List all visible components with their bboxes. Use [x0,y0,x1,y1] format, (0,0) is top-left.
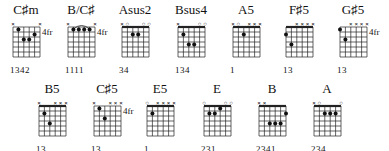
muted-string-icon: × [306,21,310,27]
fretboard-grid: ×××× [283,19,318,61]
chord-diagram: Asus2×○○○34 [115,3,165,78]
muted-string-icon: × [108,100,112,106]
finger-dot [150,112,154,116]
fingering-numbers: 231 [201,144,216,151]
finger-dot [207,112,211,116]
fretboard-grid: ×× [65,19,100,61]
fingering-numbers: 34 [119,65,129,75]
chord-name: E [197,82,237,96]
chord-name: A [307,82,347,96]
finger-dot [77,28,81,32]
muted-string-icon: × [167,100,171,106]
open-string-icon: ○ [198,21,202,27]
finger-dot [42,112,46,116]
muted-string-icon: × [59,100,63,106]
fretboard-grid: ○○○ [201,98,236,140]
fingering-numbers: 234 [311,144,326,151]
fingering-numbers: 13 [337,65,347,75]
fretboard-grid: ×○○ [175,19,210,61]
finger-dot [284,112,288,116]
muted-string-icon: × [312,100,316,106]
muted-string-icon: × [295,21,299,27]
chord-name: Bsus4 [171,3,211,17]
fretboard-grid: ×××× [337,19,372,61]
chord-diagram: Bsus4×○○134 [171,3,221,78]
finger-dot [289,43,293,47]
muted-string-icon: × [253,21,257,27]
finger-dot [338,28,342,32]
muted-string-icon: × [360,21,364,27]
muted-string-icon: × [114,100,118,106]
muted-string-icon: × [231,21,235,27]
muted-string-icon: × [172,100,176,106]
finger-dot [136,33,140,37]
fingering-numbers: 13 [91,144,101,151]
finger-dot [33,33,37,37]
chord-name: A5 [226,3,266,17]
open-string-icon: ○ [229,100,233,106]
muted-string-icon: × [64,100,68,106]
chord-diagram: B××2341 [252,82,302,151]
finger-dot [273,122,277,126]
fretboard-grid: ○×××× [144,98,179,140]
muted-string-icon: × [37,100,41,106]
chord-name: F♯5 [279,3,319,17]
finger-dot [218,107,222,111]
fret-position-label: 4fr [42,27,53,37]
finger-dot [71,28,75,32]
fingering-numbers: 13 [283,65,293,75]
fretboard-grid: ×× [10,19,45,61]
finger-dot [328,112,332,116]
muted-string-icon: × [349,21,353,27]
finger-dot [131,33,135,37]
finger-dot [323,112,327,116]
fretboard-grid: ×○××× [230,19,265,61]
fretboard-grid: ×○○ [311,98,346,140]
chord-diagram: B/C♯××4fr1111 [61,3,111,78]
open-string-icon: ○ [224,100,228,106]
finger-dot [48,122,52,126]
chord-name: C♯5 [87,82,127,96]
finger-dot [334,112,338,116]
muted-string-icon: × [53,100,57,106]
open-string-icon: ○ [237,21,241,27]
finger-dot [268,122,272,126]
open-string-icon: ○ [339,100,343,106]
open-string-icon: ○ [145,100,149,106]
chord-name: C♯m [6,3,46,17]
muted-string-icon: × [258,21,262,27]
fingering-numbers: 1 [230,65,235,75]
muted-string-icon: × [11,21,15,27]
muted-string-icon: × [247,21,251,27]
finger-dot [279,122,283,126]
muted-string-icon: × [311,21,315,27]
finger-dot [27,38,31,42]
finger-dot [16,28,20,32]
chord-diagram: A5×○×××1 [226,3,276,78]
fingering-numbers: 13 [36,144,46,151]
chord-name: B5 [32,82,72,96]
chord-name: Asus2 [115,3,155,17]
chord-diagram: E○○○231 [197,82,247,151]
finger-dot [181,33,185,37]
muted-string-icon: × [92,100,96,106]
muted-string-icon: × [38,21,42,27]
chord-diagram: F♯5××××13 [279,3,329,78]
finger-dot [82,28,86,32]
chord-name: E5 [140,82,180,96]
muted-string-icon: × [354,21,358,27]
chord-diagram: E5○××××1 [140,82,190,151]
fretboard-grid: ×○○○ [119,19,154,61]
chord-diagram: C♯5××××4fr13 [87,82,137,151]
finger-dot [103,117,107,121]
fretboard-grid: ×× [256,98,291,140]
finger-dot [343,38,347,42]
finger-dot [213,112,217,116]
muted-string-icon: × [161,100,165,106]
muted-string-icon: × [300,21,304,27]
chord-name: B [252,82,292,96]
chord-diagram: C♯m××4fr1342 [6,3,56,78]
finger-dot [187,43,191,47]
fret-position-label: 4fr [97,27,108,37]
fingering-numbers: 1 [144,144,149,151]
